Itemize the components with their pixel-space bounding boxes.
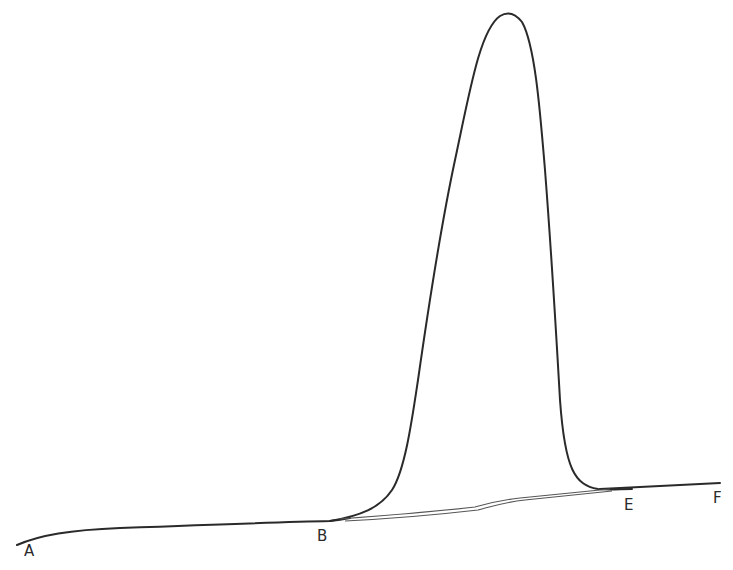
- point-label-b: B: [317, 527, 327, 545]
- baseline-e-to-f: [600, 483, 720, 489]
- point-label-a: A: [24, 542, 35, 560]
- baseline-a-to-b: [17, 518, 350, 545]
- diagram-canvas: A B E F: [0, 0, 733, 570]
- point-label-f: F: [713, 489, 722, 507]
- peak-curve: [330, 13, 632, 521]
- peak-diagram: A B E F: [0, 0, 733, 570]
- point-label-e: E: [624, 496, 633, 514]
- dropped-baseline-upper: [340, 489, 610, 519]
